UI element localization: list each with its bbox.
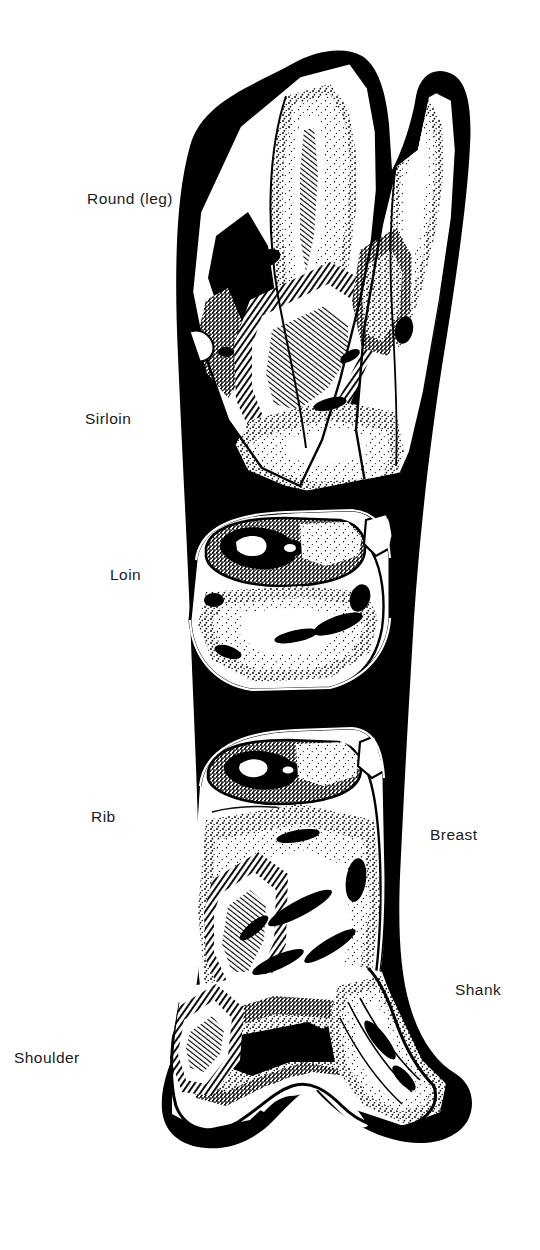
- carcass-cuts-figure: Round (leg) Sirloin Loin Rib Breast Shan…: [0, 0, 540, 1250]
- label-shoulder: Shoulder: [14, 1050, 80, 1066]
- label-round-leg: Round (leg): [87, 191, 173, 207]
- label-breast: Breast: [430, 827, 478, 843]
- label-sirloin: Sirloin: [85, 411, 131, 427]
- label-shank: Shank: [455, 982, 501, 998]
- carcass-illustration: [0, 0, 540, 1250]
- primal-loin: [190, 510, 394, 690]
- label-loin: Loin: [110, 567, 141, 583]
- label-rib: Rib: [91, 809, 116, 825]
